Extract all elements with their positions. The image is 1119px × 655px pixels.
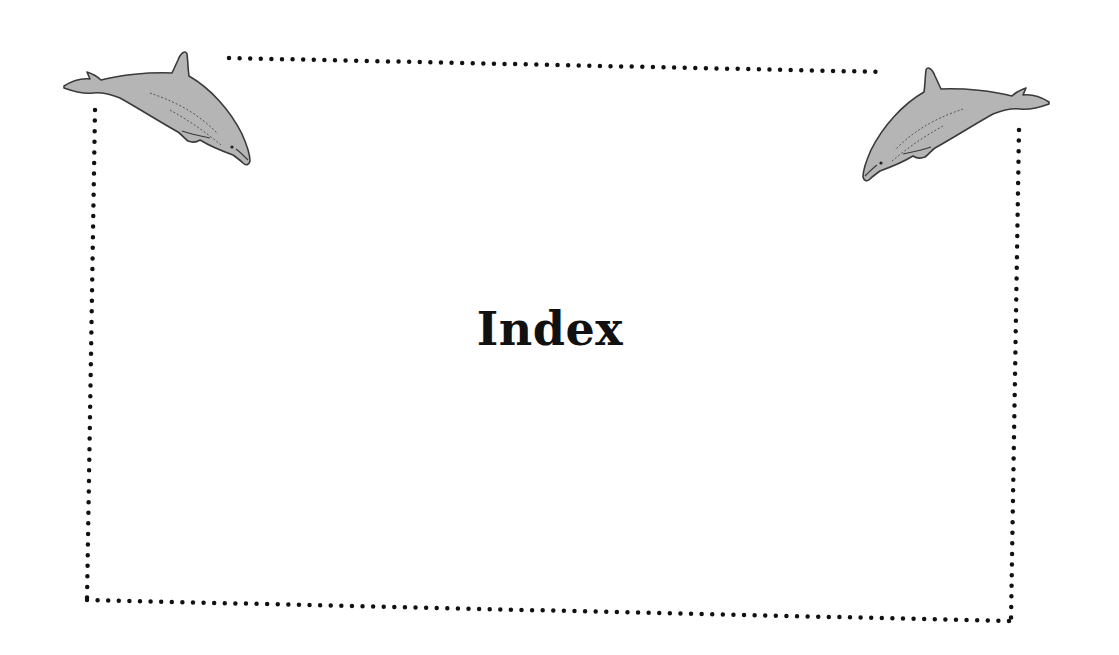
dolphin-icon: [858, 64, 1053, 186]
dotted-border-bottom: [87, 600, 1010, 621]
dotted-border-left: [87, 110, 95, 600]
index-page: Index: [0, 0, 1119, 655]
dotted-border-top: [229, 58, 884, 72]
dotted-border-right: [1011, 130, 1019, 621]
page-title: Index: [420, 298, 680, 360]
dolphin-icon: [60, 48, 255, 170]
